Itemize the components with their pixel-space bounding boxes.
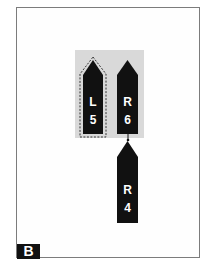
piece-side-label: R xyxy=(117,96,138,108)
piece-side-label: L xyxy=(79,96,107,108)
piece-number-label: 6 xyxy=(117,114,138,126)
piece-l5[interactable]: L 5 xyxy=(79,56,107,139)
piece-r6[interactable]: R 6 xyxy=(117,60,138,134)
piece-side-label: R xyxy=(117,184,138,196)
panel-label-badge: B xyxy=(17,244,40,259)
piece-r4[interactable]: R 4 xyxy=(117,141,138,223)
piece-number-label: 5 xyxy=(79,114,107,126)
piece-number-label: 4 xyxy=(117,202,138,214)
